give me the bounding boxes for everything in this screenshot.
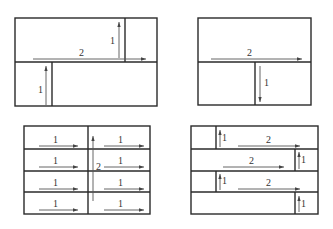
arrow-label: 2: [249, 155, 254, 166]
arrow-label: 1: [222, 175, 227, 186]
cutting-sequence-diagrams: 2 1 1 2 1 1 1 1 1 1 1 1 1: [0, 0, 333, 229]
diagram-bottom-left: 1 1 1 1 1 1 1 1 2: [24, 126, 150, 214]
arrow-label: 1: [110, 35, 115, 46]
arrow-label: 1: [222, 132, 227, 143]
diagram-top-left: 2 1 1: [15, 18, 157, 106]
arrow-label: 1: [38, 84, 43, 95]
arrow-label: 1: [301, 154, 306, 165]
outer-frame: [24, 126, 150, 214]
diagram-top-right: 2 1: [198, 18, 311, 105]
arrow-label: 1: [53, 155, 58, 166]
arrow-label: 1: [118, 198, 123, 209]
arrow-label: 1: [118, 155, 123, 166]
arrow-label: 1: [53, 134, 58, 145]
arrow-label: 1: [118, 134, 123, 145]
arrow-label: 1: [53, 198, 58, 209]
diagram-bottom-right: 1 2 1 2 1 2 1: [191, 126, 318, 214]
arrow-label: 1: [118, 177, 123, 188]
arrow-label: 2: [247, 47, 252, 58]
arrow-label: 1: [301, 198, 306, 209]
arrow-label: 2: [266, 177, 271, 188]
arrow-label: 2: [96, 161, 101, 172]
arrow-label: 2: [79, 47, 84, 58]
arrow-label: 1: [53, 177, 58, 188]
arrow-label: 2: [266, 134, 271, 145]
arrow-label: 1: [264, 77, 269, 88]
